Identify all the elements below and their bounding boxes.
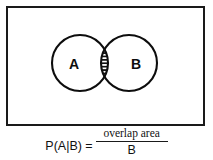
set-a-label: A [69,56,79,72]
circle-set-b [101,35,157,91]
formula-lhs: P(A|B) = [45,132,92,153]
formula-denominator: B [128,142,136,157]
formula-numerator: overlap area [99,128,164,141]
conditional-probability-formula: P(A|B) = overlap area B [0,128,213,160]
venn-diagram: A B [8,8,207,128]
formula-fraction: overlap area B [96,128,168,156]
figure-canvas: A B P(A|B) = overlap area B [0,0,213,160]
diagram-frame: A B [6,6,205,126]
set-b-label: B [131,56,141,72]
circle-set-a [52,35,108,91]
